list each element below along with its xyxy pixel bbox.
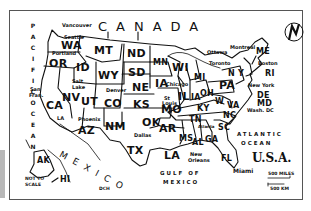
new-england (244, 56, 256, 76)
city-toronto: Toronto (209, 61, 230, 66)
north-arrow-icon (285, 23, 303, 41)
state-ks: KS (133, 99, 150, 110)
state-ar: AR (159, 123, 177, 134)
city-san-francisco-2: Fran. (29, 93, 43, 98)
city-wash-dc: Wash. DC (247, 108, 274, 113)
city-ottawa: Ottawa (207, 50, 227, 55)
city-miami: Miami (233, 168, 253, 174)
state-oh: OH (200, 90, 214, 98)
not-to-scale-label-2: SCALE (25, 183, 41, 188)
state-nv: NV (62, 92, 80, 103)
state-ak: AK (37, 157, 50, 165)
hawaii-arrow (52, 178, 58, 182)
map-title: U.S.A. (252, 152, 291, 164)
city-salt-lake-2: Lake (72, 85, 85, 90)
state-il: IL (178, 91, 190, 102)
state-pa: PA (219, 80, 235, 91)
state-az: AZ (78, 125, 95, 136)
state-co: CO (104, 98, 122, 109)
city-chicago: Chicago (166, 82, 188, 87)
scale-bar (268, 176, 290, 186)
state-mt: MT (94, 45, 113, 56)
city-denver: Denver (106, 88, 126, 93)
state-al: AL (192, 139, 204, 147)
state-ca: CA (46, 100, 63, 111)
state-mi: MI (194, 74, 206, 82)
state-fl: FL (221, 155, 232, 163)
state-ny: N Y (228, 70, 244, 78)
state-ri: RI (265, 70, 275, 78)
not-to-scale-label-1: NOT TO (25, 177, 44, 182)
state-la: LA (164, 150, 180, 161)
state-nd: ND (127, 48, 146, 59)
state-wv: W (215, 98, 224, 106)
city-la: LA (57, 116, 64, 121)
state-ne: NE (132, 82, 149, 93)
state-sc: SC (218, 124, 230, 132)
city-montreal: Montreal (230, 45, 255, 50)
state-tn: TN (189, 116, 202, 124)
state-ok: OK (142, 117, 160, 128)
state-va: VA (227, 102, 239, 110)
city-boston: Boston (258, 61, 278, 66)
city-vancouver: Vancouver (62, 23, 92, 28)
artist-signature: DCH (99, 187, 110, 192)
scale-km-label: 500 KM (270, 187, 289, 192)
scale-miles-label: 500 MILES (268, 172, 294, 177)
city-dallas: Dallas (134, 133, 151, 138)
state-sd: SD (128, 67, 146, 78)
city-new-york: New York (248, 83, 274, 88)
state-me: ME (256, 48, 270, 56)
atlantic-ocean-label-1: ATLANTIC (237, 132, 283, 138)
canada-label: CANADA (98, 20, 207, 33)
atlantic-ocean-label-2: OCEAN (241, 141, 272, 147)
gulf-of-mexico-label-2: MEXICO (163, 180, 199, 186)
state-mn: MN (153, 59, 168, 67)
state-wy: WY (98, 70, 119, 81)
state-tx: TX (127, 145, 144, 156)
state-nc: NC (223, 112, 236, 120)
state-ky: KY (197, 105, 210, 113)
state-ut: UT (81, 96, 98, 107)
city-new-orleans-2: Orleans (188, 158, 210, 163)
state-hi: HI (60, 176, 70, 184)
city-seattle: Seattle (64, 35, 84, 40)
city-atlanta: Atlanta (198, 125, 215, 129)
state-wi: WI (172, 62, 189, 73)
city-portland: Portland (52, 51, 76, 56)
state-or: OR (49, 58, 67, 69)
city-phoenix: Phoenix (78, 117, 101, 122)
state-nm: NM (105, 121, 126, 132)
state-ga: GA (205, 136, 218, 144)
gulf-of-mexico-label-1: GULF OF (160, 171, 201, 177)
state-id: ID (76, 62, 90, 73)
city-st-louis-2: Louis (162, 101, 177, 106)
